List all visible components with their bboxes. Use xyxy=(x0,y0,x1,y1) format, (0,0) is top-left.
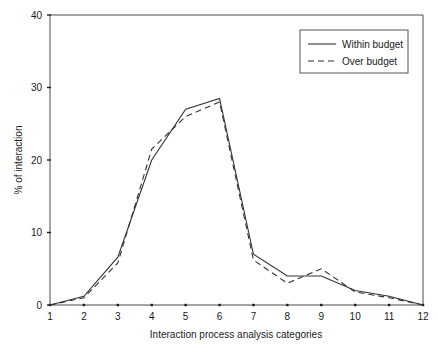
legend-label-within-budget: Within budget xyxy=(342,39,403,50)
x-tick-mark xyxy=(83,304,85,306)
x-tick-label: 12 xyxy=(417,311,429,322)
y-tick-label: 0 xyxy=(36,300,42,311)
x-tick-mark xyxy=(151,304,153,306)
x-tick-label: 9 xyxy=(318,311,324,322)
x-tick-label: 7 xyxy=(251,311,257,322)
x-axis-ticks: 123456789101112 xyxy=(47,304,429,322)
data-series-group xyxy=(50,98,423,305)
x-tick-label: 6 xyxy=(217,311,223,322)
x-tick-label: 2 xyxy=(81,311,87,322)
y-tick-label: 20 xyxy=(31,155,43,166)
series-line-within-budget xyxy=(50,98,423,305)
y-tick-label: 10 xyxy=(31,227,43,238)
chart-figure: 010203040 123456789101112 % of interacti… xyxy=(0,0,438,353)
line-chart: 010203040 123456789101112 % of interacti… xyxy=(0,0,438,353)
legend-label-over-budget: Over budget xyxy=(342,56,397,67)
x-tick-mark xyxy=(354,304,356,306)
x-tick-mark xyxy=(252,304,254,306)
x-tick-label: 11 xyxy=(384,311,395,322)
x-tick-label: 5 xyxy=(183,311,189,322)
y-axis-ticks: 010203040 xyxy=(31,10,51,311)
x-tick-label: 1 xyxy=(47,311,53,322)
x-tick-mark xyxy=(320,304,322,306)
x-tick-label: 10 xyxy=(350,311,362,322)
x-tick-label: 8 xyxy=(285,311,291,322)
x-tick-mark xyxy=(117,304,119,306)
series-line-over-budget xyxy=(50,102,423,305)
x-tick-mark xyxy=(388,304,390,306)
legend: Within budget Over budget xyxy=(300,30,408,73)
y-tick-label: 30 xyxy=(31,82,43,93)
x-tick-label: 3 xyxy=(115,311,121,322)
x-tick-label: 4 xyxy=(149,311,155,322)
x-tick-mark xyxy=(286,304,288,306)
x-axis-title: Interaction process analysis categories xyxy=(150,329,322,340)
x-tick-mark xyxy=(184,304,186,306)
x-tick-mark xyxy=(218,304,220,306)
y-axis-title: % of interaction xyxy=(13,126,24,195)
y-tick-label: 40 xyxy=(31,10,43,21)
